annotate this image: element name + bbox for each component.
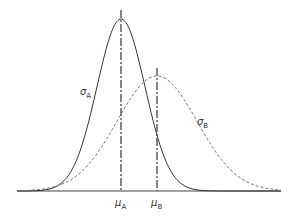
sigma-a-label: σA (80, 86, 91, 100)
curve-b (17, 76, 281, 191)
curve-a (17, 19, 281, 191)
mu-a-label: μA (114, 197, 126, 211)
sigma-b-label: σB (197, 116, 208, 130)
mu-b-label: μB (150, 197, 162, 211)
normal-distributions-chart: σA σB μA μB (0, 0, 298, 219)
